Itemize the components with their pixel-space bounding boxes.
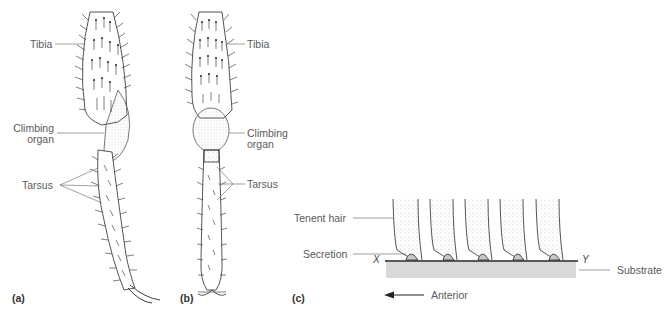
label-anterior: Anterior	[431, 290, 468, 301]
label-b-tibia: Tibia	[247, 39, 269, 50]
tenent-hair-3	[465, 199, 492, 260]
label-substrate: Substrate	[617, 265, 662, 276]
label-a-tarsus: Tarsus	[22, 180, 53, 191]
leg-a-drawing	[75, 12, 160, 303]
tenent-hair-4	[500, 199, 527, 260]
label-b-climbing-organ: Climbing organ	[247, 128, 288, 150]
substrate-block	[386, 262, 576, 278]
point-x: X	[373, 254, 380, 265]
tenent-hair-1	[393, 199, 422, 260]
label-a-climbing-organ: Climbing organ	[10, 123, 54, 145]
anterior-arrow-icon	[384, 292, 424, 299]
label-b-climbing-line2: organ	[247, 139, 288, 150]
tenent-hairs-drawing	[353, 199, 610, 299]
label-secretion: Secretion	[303, 249, 347, 260]
figure-illustration	[0, 0, 672, 313]
tenent-hair-5	[536, 199, 563, 260]
label-a-climbing-line2: organ	[10, 134, 54, 145]
point-y: Y	[582, 254, 589, 265]
panel-label-a: (a)	[12, 292, 25, 304]
label-tenent-hair: Tenent hair	[294, 213, 346, 224]
leg-b-drawing	[185, 12, 238, 295]
label-a-tibia: Tibia	[30, 39, 52, 50]
panel-label-b: (b)	[180, 292, 193, 304]
panel-label-c: (c)	[292, 292, 305, 304]
tenent-hair-2	[430, 199, 457, 260]
label-b-tarsus: Tarsus	[247, 179, 278, 190]
